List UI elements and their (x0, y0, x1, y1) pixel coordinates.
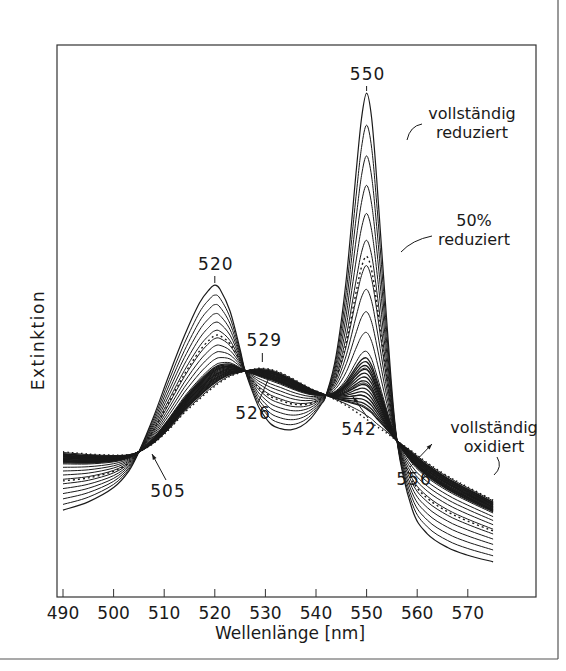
annotation-50-percent-line2: reduziert (438, 230, 510, 249)
isosbestic-label-526: 526 (235, 403, 270, 423)
x-tick-label: 570 (452, 603, 484, 623)
curve-intermediate (63, 266, 493, 530)
annotation-50-percent-line1: 50% (456, 211, 492, 230)
curve-intermediate (63, 185, 493, 544)
chart-annotations: 550520529505526542556vollständigreduzier… (150, 64, 537, 501)
annotation-leader-50-percent (401, 236, 432, 252)
spectrum-chart: 490500510520530540550560570 Wellenlänge … (0, 0, 566, 671)
x-axis-title: Wellenlänge [nm] (215, 623, 365, 643)
annotation-fully-reduced-line1: vollständig (428, 104, 515, 123)
isosbestic-label-556: 556 (396, 469, 431, 489)
peak-label-550: 550 (350, 64, 385, 84)
x-tick-label: 510 (148, 603, 180, 623)
annotation-leader-fully-oxidized (494, 457, 499, 475)
x-tick-label: 540 (300, 603, 332, 623)
isosbestic-label-505: 505 (150, 481, 185, 501)
x-axis-ticks (63, 589, 468, 597)
x-tick-label: 500 (97, 603, 129, 623)
curve-fully-reduced (63, 93, 493, 562)
x-tick-label: 560 (401, 603, 433, 623)
x-tick-label: 520 (199, 603, 231, 623)
isosbestic-label-542: 542 (341, 419, 376, 439)
annotation-leader-fully-reduced (407, 124, 422, 140)
x-tick-label: 530 (249, 603, 281, 623)
peak-label-520: 520 (198, 254, 233, 274)
curve-intermediate (63, 156, 493, 550)
x-axis-tick-labels: 490500510520530540550560570 (47, 603, 484, 623)
y-axis-title: Extinktion (28, 290, 48, 390)
x-tick-label: 550 (350, 603, 382, 623)
annotation-fully-reduced-line2: reduziert (436, 123, 508, 142)
annotation-fully-oxidized-line1: vollständig (450, 418, 537, 437)
x-tick-label: 490 (47, 603, 79, 623)
arrow-head-icon (152, 454, 156, 460)
spectral-curves (63, 93, 493, 562)
annotation-fully-oxidized-line2: oxidiert (464, 437, 525, 456)
peak-label-529: 529 (247, 330, 282, 350)
